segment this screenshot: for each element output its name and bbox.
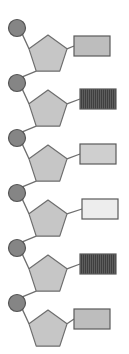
- base-rectangle: [80, 144, 116, 164]
- bond-sugar-to-base: [67, 99, 80, 104]
- phosphate-circle: [9, 130, 26, 147]
- bond-sugar-to-next-phosphate: [22, 291, 36, 297]
- base-rectangle: [82, 199, 118, 219]
- bond-sugar-to-next-phosphate: [22, 181, 36, 187]
- diagram-canvas: [0, 0, 129, 354]
- shapes-layer: [9, 20, 119, 347]
- bond-sugar-to-base: [67, 46, 74, 49]
- bond-sugar-to-next-phosphate: [22, 126, 36, 132]
- bond-sugar-to-base: [67, 209, 82, 214]
- nucleic-acid-chain-diagram: [0, 0, 129, 354]
- phosphate-circle: [9, 75, 26, 92]
- phosphate-circle: [9, 20, 26, 37]
- sugar-pentagon: [29, 310, 67, 346]
- phosphate-circle: [9, 240, 26, 257]
- base-rectangle: [80, 254, 116, 274]
- bond-phosphate-to-sugar: [22, 89, 29, 104]
- bond-phosphate-to-sugar: [22, 254, 29, 269]
- sugar-pentagon: [29, 255, 67, 291]
- bond-sugar-to-base: [67, 154, 80, 159]
- sugar-pentagon: [29, 145, 67, 181]
- bond-sugar-to-base: [67, 319, 74, 324]
- bond-phosphate-to-sugar: [22, 34, 29, 49]
- base-rectangle: [74, 309, 110, 329]
- phosphate-circle: [9, 185, 26, 202]
- sugar-pentagon: [29, 35, 67, 71]
- phosphate-circle: [9, 295, 26, 312]
- bond-phosphate-to-sugar: [22, 199, 29, 214]
- bond-phosphate-to-sugar: [22, 309, 29, 324]
- bond-sugar-to-next-phosphate: [22, 236, 36, 242]
- bond-sugar-to-base: [67, 264, 80, 269]
- base-rectangle: [80, 89, 116, 109]
- base-rectangle: [74, 36, 110, 56]
- bond-sugar-to-next-phosphate: [22, 71, 36, 77]
- sugar-pentagon: [29, 90, 67, 126]
- sugar-pentagon: [29, 200, 67, 236]
- bond-phosphate-to-sugar: [22, 144, 29, 159]
